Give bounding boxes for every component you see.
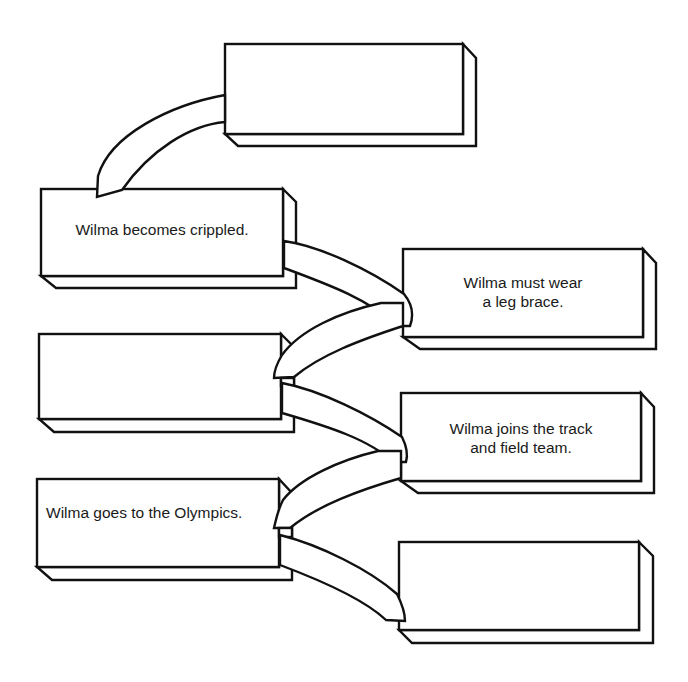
connector-arrow: [274, 303, 403, 378]
connector-arrow: [274, 451, 401, 528]
box-3-label: [39, 334, 281, 419]
connector-arrow: [280, 535, 405, 621]
connector-arrow: [97, 95, 225, 197]
box-top-label: [225, 44, 463, 134]
box-1-label: Wilma becomes crippled.: [41, 189, 283, 276]
box-6-label: [399, 542, 639, 630]
box-2-label: Wilma must wear a leg brace.: [403, 249, 643, 337]
box-5-label: Wilma goes to the Olympics.: [37, 479, 279, 567]
box-4-label: Wilma joins the track and field team.: [401, 393, 641, 481]
